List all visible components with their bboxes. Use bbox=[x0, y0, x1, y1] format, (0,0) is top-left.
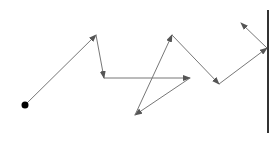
walk-path bbox=[25, 23, 267, 115]
path-segment-arrow bbox=[172, 35, 219, 84]
path-segment-arrow bbox=[96, 35, 104, 78]
random-walk-diagram bbox=[0, 0, 280, 141]
path-segment-arrow bbox=[25, 35, 96, 105]
start-point bbox=[22, 102, 29, 109]
path-segment-arrow bbox=[219, 48, 267, 84]
path-segment-arrow bbox=[241, 23, 267, 48]
